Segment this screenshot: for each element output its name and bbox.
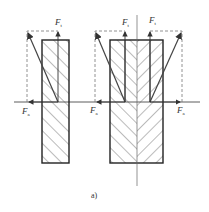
single-helical-gear-section	[27, 31, 69, 163]
figure-caption: a)	[91, 191, 98, 200]
force-diagram: Ft Ft Ft Fa Fa Fa a)	[0, 0, 209, 212]
label-fa-left: Fa	[21, 106, 31, 117]
label-ft-mid: Ft	[121, 17, 130, 28]
herringbone-gear-section	[95, 15, 182, 186]
label-fa-right: Fa	[176, 105, 186, 116]
label-ft-left: Ft	[54, 17, 63, 28]
label-fa-mid: Fa	[89, 105, 99, 116]
label-ft-right: Ft	[148, 15, 157, 26]
